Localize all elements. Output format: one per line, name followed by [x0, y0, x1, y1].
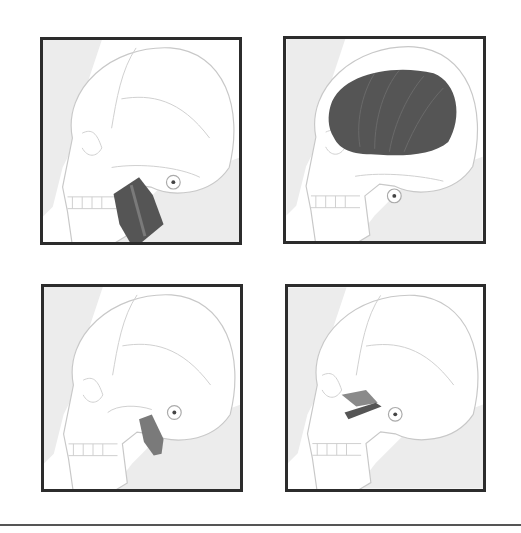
skull-illustration-temporalis — [286, 39, 483, 241]
bottom-divider — [0, 524, 521, 526]
illustration-frame-medial-pterygoid — [41, 284, 243, 492]
skull-illustration-masseter — [43, 40, 239, 242]
skull-illustration-medial-pterygoid — [44, 287, 240, 489]
illustration-frame-lateral-pterygoid — [285, 284, 486, 492]
illustration-frame-masseter — [40, 37, 242, 245]
illustration-frame-temporalis — [283, 36, 486, 244]
skull-illustration-lateral-pterygoid — [288, 287, 483, 489]
